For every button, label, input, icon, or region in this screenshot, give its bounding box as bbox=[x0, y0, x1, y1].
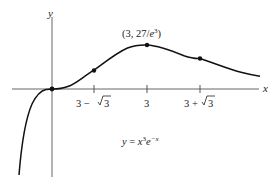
origin-point bbox=[50, 87, 55, 92]
svg-text:3 −: 3 − bbox=[76, 98, 90, 109]
tick-label-3-minus-sqrt3: 3 − 3 bbox=[76, 96, 111, 109]
tick-label-3: 3 bbox=[144, 98, 149, 109]
svg-text:3: 3 bbox=[104, 98, 109, 109]
function-label: y = x3e−x bbox=[121, 135, 159, 147]
tick-label-3-plus-sqrt3: 3 + 3 bbox=[184, 96, 215, 109]
svg-text:3: 3 bbox=[208, 98, 213, 109]
function-curve bbox=[19, 45, 260, 175]
maximum-label: (3, 27/e3) bbox=[122, 27, 162, 40]
graph-canvas: y x (3, 27/e3) 3 − 3 3 3 + 3 y = x3e−x bbox=[0, 0, 273, 180]
y-axis-label: y bbox=[47, 7, 53, 19]
inflection-point-left bbox=[92, 68, 96, 72]
inflection-point-right bbox=[198, 56, 202, 60]
svg-text:3 +: 3 + bbox=[184, 98, 198, 109]
maximum-point bbox=[145, 43, 149, 47]
x-axis-label: x bbox=[262, 82, 268, 94]
